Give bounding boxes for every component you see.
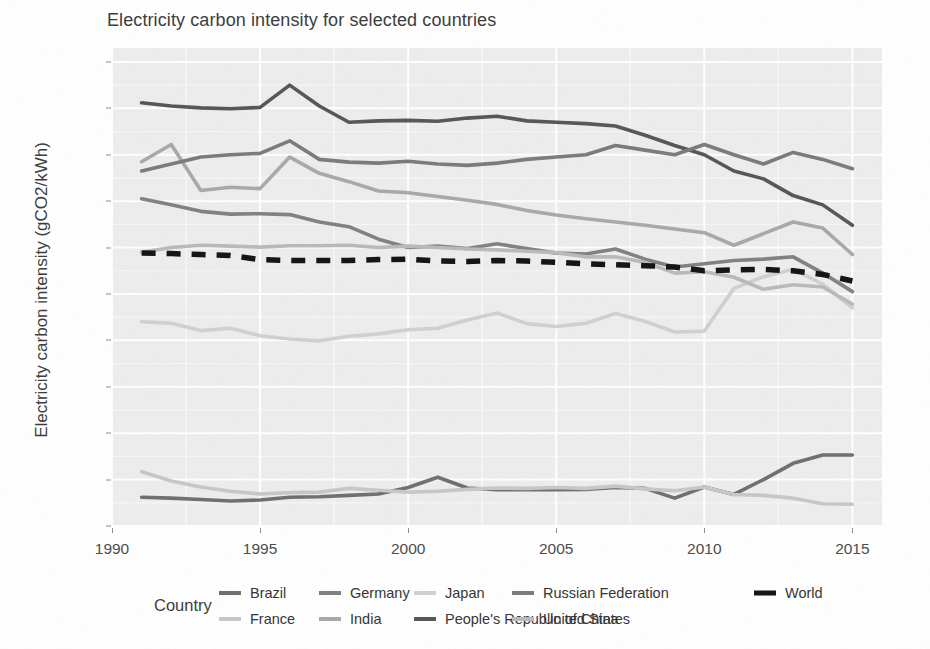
x-tick-label-2000: 2000	[391, 540, 425, 558]
legend-item-india[interactable]: India	[317, 608, 381, 630]
legend-label-india: India	[350, 611, 381, 627]
y-tick-mark-900	[106, 108, 111, 109]
y-tick-mark-300	[106, 386, 111, 387]
y-tick-mark-700	[106, 201, 111, 202]
y-tick-mark-200	[106, 433, 111, 434]
y-tick-mark-0	[106, 526, 111, 527]
legend-swatch-united-states	[510, 608, 536, 630]
x-tick-mark-2010	[704, 528, 705, 533]
legend-swatch-brazil	[217, 582, 243, 604]
plot-lines-svg	[112, 48, 882, 526]
legend-title: Country	[154, 596, 212, 615]
legend-swatch-japan	[412, 582, 438, 604]
plot-area	[112, 48, 882, 526]
legend-label-united-states: United States	[543, 611, 630, 627]
series-line-japan	[142, 269, 853, 340]
legend-label-russian-federation: Russian Federation	[543, 585, 669, 601]
legend-label-japan: Japan	[445, 585, 485, 601]
series-line-united-states	[142, 245, 853, 304]
y-tick-mark-600	[106, 247, 111, 248]
legend-swatch-germany	[317, 582, 343, 604]
x-tick-mark-1995	[260, 528, 261, 533]
legend-swatch-world	[752, 582, 778, 604]
x-tick-mark-2005	[556, 528, 557, 533]
y-tick-mark-500	[106, 293, 111, 294]
legend-item-france[interactable]: France	[217, 608, 295, 630]
x-tick-label-2005: 2005	[539, 540, 573, 558]
legend-item-germany[interactable]: Germany	[317, 582, 410, 604]
legend-label-france: France	[250, 611, 295, 627]
y-tick-mark-100	[106, 479, 111, 480]
series-line-russian-federation	[142, 141, 853, 171]
legend-swatch-people-s-republic-of-china	[412, 608, 438, 630]
x-tick-label-2015: 2015	[835, 540, 869, 558]
legend-swatch-russian-federation	[510, 582, 536, 604]
x-tick-mark-2015	[852, 528, 853, 533]
x-tick-label-2010: 2010	[687, 540, 721, 558]
chart-figure: Electricity carbon intensity for selecte…	[0, 0, 930, 649]
legend: Country BrazilFranceGermanyIndiaJapanPeo…	[112, 578, 912, 640]
y-tick-mark-1000	[106, 61, 111, 62]
x-tick-label-1995: 1995	[243, 540, 277, 558]
legend-swatch-france	[217, 608, 243, 630]
series-line-india	[142, 145, 853, 255]
legend-item-united-states[interactable]: United States	[510, 608, 630, 630]
legend-item-japan[interactable]: Japan	[412, 582, 485, 604]
legend-item-russian-federation[interactable]: Russian Federation	[510, 582, 669, 604]
y-axis-title: Electricity carbon intensity (gCO2/kWh)	[32, 80, 52, 500]
legend-item-world[interactable]: World	[752, 582, 823, 604]
y-tick-mark-800	[106, 154, 111, 155]
legend-swatch-india	[317, 608, 343, 630]
legend-label-germany: Germany	[350, 585, 410, 601]
x-tick-mark-2000	[408, 528, 409, 533]
legend-label-world: World	[785, 585, 823, 601]
y-tick-mark-400	[106, 340, 111, 341]
series-line-world	[142, 253, 853, 281]
x-tick-label-1990: 1990	[95, 540, 129, 558]
legend-item-brazil[interactable]: Brazil	[217, 582, 286, 604]
chart-title: Electricity carbon intensity for selecte…	[107, 10, 496, 31]
legend-label-brazil: Brazil	[250, 585, 286, 601]
x-tick-mark-1990	[112, 528, 113, 533]
